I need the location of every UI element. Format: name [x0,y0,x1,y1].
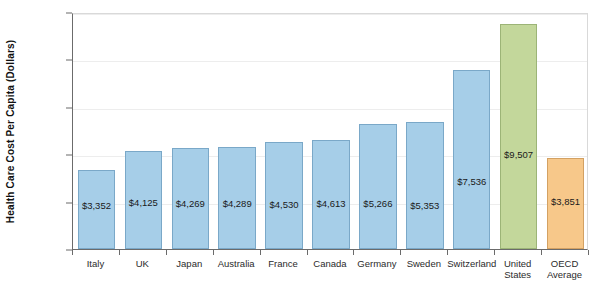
gridline [73,14,587,15]
x-tick-label-japan: Japan [166,258,213,269]
x-tick-label-australia: Australia [213,258,260,269]
x-tick-mark [494,250,495,255]
bar-oecd-average[interactable]: $3,851 [547,158,585,249]
y-axis-title: Health Care Cost Per Capita (Dollars) [0,0,22,262]
x-tick-label-france: France [260,258,307,269]
x-tick-mark [447,250,448,255]
x-tick-label-sweden: Sweden [400,258,447,269]
x-tick-mark [72,250,73,255]
x-tick-label-uk: UK [119,258,166,269]
x-tick-label-oecd-average: OECD Average [541,258,588,280]
bar-value-label: $9,507 [501,149,537,160]
bar-value-label: $3,352 [79,200,115,211]
bar-uk[interactable]: $4,125 [125,151,163,249]
bar-value-label: $4,289 [219,198,255,209]
bar-japan[interactable]: $4,269 [172,148,210,249]
y-axis-title-text: Health Care Cost Per Capita (Dollars) [6,39,17,223]
bar-sweden[interactable]: $5,353 [406,122,444,249]
x-tick-mark [353,250,354,255]
x-tick-mark [260,250,261,255]
bar-switzerland[interactable]: $7,536 [453,70,491,249]
plot-area: $3,352$4,125$4,269$4,289$4,530$4,613$5,2… [72,13,588,250]
x-tick-mark [588,250,589,255]
x-tick-label-germany: Germany [353,258,400,269]
x-tick-label-canada: Canada [307,258,354,269]
bar-chart-figure: Health Care Cost Per Capita (Dollars) $0… [0,0,607,293]
x-tick-label-united-states: United States [494,258,541,280]
bar-australia[interactable]: $4,289 [218,147,256,249]
x-tick-mark [307,250,308,255]
bar-germany[interactable]: $5,266 [359,124,397,249]
bar-value-label: $4,269 [173,198,209,209]
bar-united-states[interactable]: $9,507 [500,24,538,249]
x-tick-mark [213,250,214,255]
bar-canada[interactable]: $4,613 [312,140,350,249]
x-tick-mark [119,250,120,255]
bar-value-label: $5,353 [407,200,443,211]
x-tick-label-switzerland: Switzerland [447,258,494,269]
x-tick-mark [166,250,167,255]
bar-italy[interactable]: $3,352 [78,170,116,249]
bar-france[interactable]: $4,530 [265,142,303,249]
x-tick-label-italy: Italy [72,258,119,269]
x-tick-mark [400,250,401,255]
x-tick-mark [541,250,542,255]
bar-value-label: $4,125 [126,197,162,208]
bar-value-label: $4,530 [266,199,302,210]
bar-value-label: $4,613 [313,198,349,209]
bar-value-label: $7,536 [454,176,490,187]
bar-value-label: $3,851 [548,196,584,207]
bar-value-label: $5,266 [360,198,396,209]
